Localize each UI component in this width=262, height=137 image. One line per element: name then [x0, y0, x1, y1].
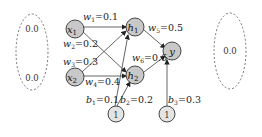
weight-label-w4: w4=0.4	[85, 76, 120, 88]
svg-text:y: y	[168, 46, 175, 57]
weight-label-w6: w6=0.6	[132, 52, 167, 64]
node-h2: h2	[126, 66, 144, 84]
left-value-2: 0.0	[25, 73, 39, 83]
bias-label-b3: b3=0.3	[168, 94, 201, 106]
weight-label-w3: w3=0.3	[63, 56, 98, 68]
left-output-group: 0.0 0.0	[16, 14, 48, 90]
right-output-group: 0.0	[214, 13, 246, 89]
svg-text:1: 1	[113, 110, 118, 120]
node-bias-1: 1	[108, 106, 124, 122]
weight-label-w1: w1=0.1	[83, 11, 118, 23]
weight-label-w2: w2=0.2	[63, 38, 98, 50]
node-h1: h1	[126, 18, 144, 36]
weight-label-w5: w5=0.5	[148, 22, 183, 34]
bias-label-b2: b2=0.2	[120, 94, 153, 106]
bias-label-b1: b1=0.1	[86, 94, 119, 106]
left-value-1: 0.0	[25, 24, 39, 34]
right-value-1: 0.0	[223, 46, 237, 56]
svg-text:1: 1	[164, 110, 169, 120]
node-x1: x1	[66, 20, 84, 38]
node-x2: x2	[66, 68, 84, 86]
neural-network-diagram: 0.0 0.0 0.0 x1 x2 h1 h2 y 1	[0, 0, 262, 137]
node-bias-2: 1	[159, 106, 175, 122]
